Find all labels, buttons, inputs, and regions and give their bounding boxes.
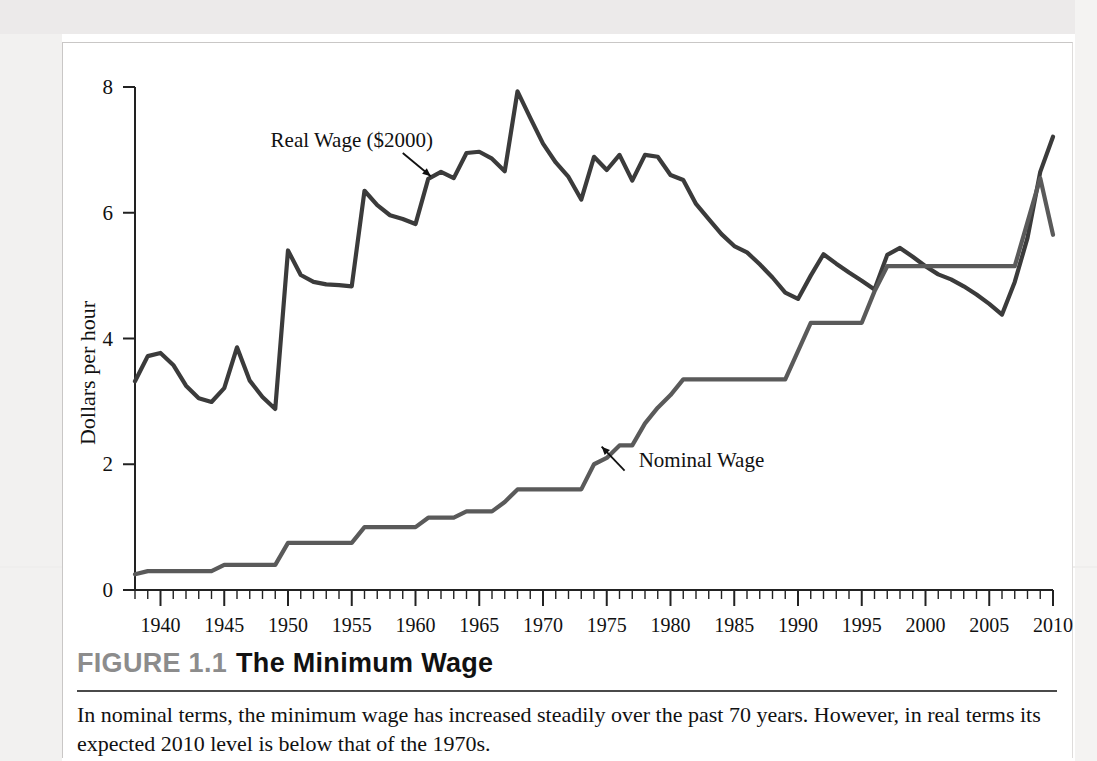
- x-axis-tick-label: 1960: [396, 614, 436, 636]
- x-axis-tick-label: 1965: [459, 614, 499, 636]
- x-axis-tick-label: 1945: [204, 614, 244, 636]
- chart-annotations: Real Wage ($2000)Nominal Wage: [271, 128, 765, 473]
- figure-caption-block: FIGURE 1.1The Minimum Wage In nominal te…: [63, 643, 1074, 759]
- x-axis-tick-label: 2010: [1033, 614, 1073, 636]
- y-axis-tick-label: 2: [103, 452, 114, 476]
- annotation-label-real-wage-2000: Real Wage ($2000): [271, 128, 433, 152]
- x-axis-tick-label: 1990: [778, 614, 818, 636]
- figure-number: FIGURE 1.1: [77, 648, 227, 678]
- x-axis: 1940194519501955196019651970197519801985…: [135, 590, 1073, 636]
- x-axis-tick-label: 1985: [714, 614, 754, 636]
- page-scan-edge-top: [0, 0, 1097, 34]
- figure-title-divider: [77, 690, 1057, 692]
- y-axis-tick-label: 0: [103, 578, 114, 602]
- x-axis-tick-label: 1975: [587, 614, 627, 636]
- x-axis-tick-label: 1940: [141, 614, 181, 636]
- figure-title-line: FIGURE 1.1The Minimum Wage: [77, 648, 493, 679]
- page-scan-edge-left: [0, 0, 62, 761]
- figure-title-text: The Minimum Wage: [236, 648, 493, 678]
- annotation-label-nominal-wage: Nominal Wage: [639, 448, 765, 472]
- y-axis-tick-label: 6: [103, 201, 114, 225]
- figure-container: 02468 1940194519501955196019651970197519…: [62, 42, 1073, 758]
- chart-series-group: [135, 91, 1053, 574]
- x-axis-tick-label: 1995: [842, 614, 882, 636]
- x-axis-tick-label: 1950: [268, 614, 308, 636]
- y-axis-tick-label: 4: [103, 327, 114, 351]
- y-axis: 02468: [103, 75, 136, 602]
- x-axis-tick-label: 1970: [523, 614, 563, 636]
- series-line-nominal-wage: [135, 178, 1053, 574]
- x-axis-tick-label: 2000: [906, 614, 946, 636]
- minimum-wage-line-chart: 02468 1940194519501955196019651970197519…: [63, 43, 1074, 643]
- y-axis-tick-label: 8: [103, 75, 114, 99]
- x-axis-tick-label: 1955: [332, 614, 372, 636]
- x-axis-tick-label: 2005: [969, 614, 1009, 636]
- y-axis-title: Dollars per hour: [75, 300, 100, 445]
- chart-plot-area: 02468 1940194519501955196019651970197519…: [63, 43, 1074, 643]
- figure-caption-text: In nominal terms, the minimum wage has i…: [77, 700, 1067, 758]
- page-scan-edge-right: [1075, 0, 1097, 761]
- x-axis-tick-label: 1980: [651, 614, 691, 636]
